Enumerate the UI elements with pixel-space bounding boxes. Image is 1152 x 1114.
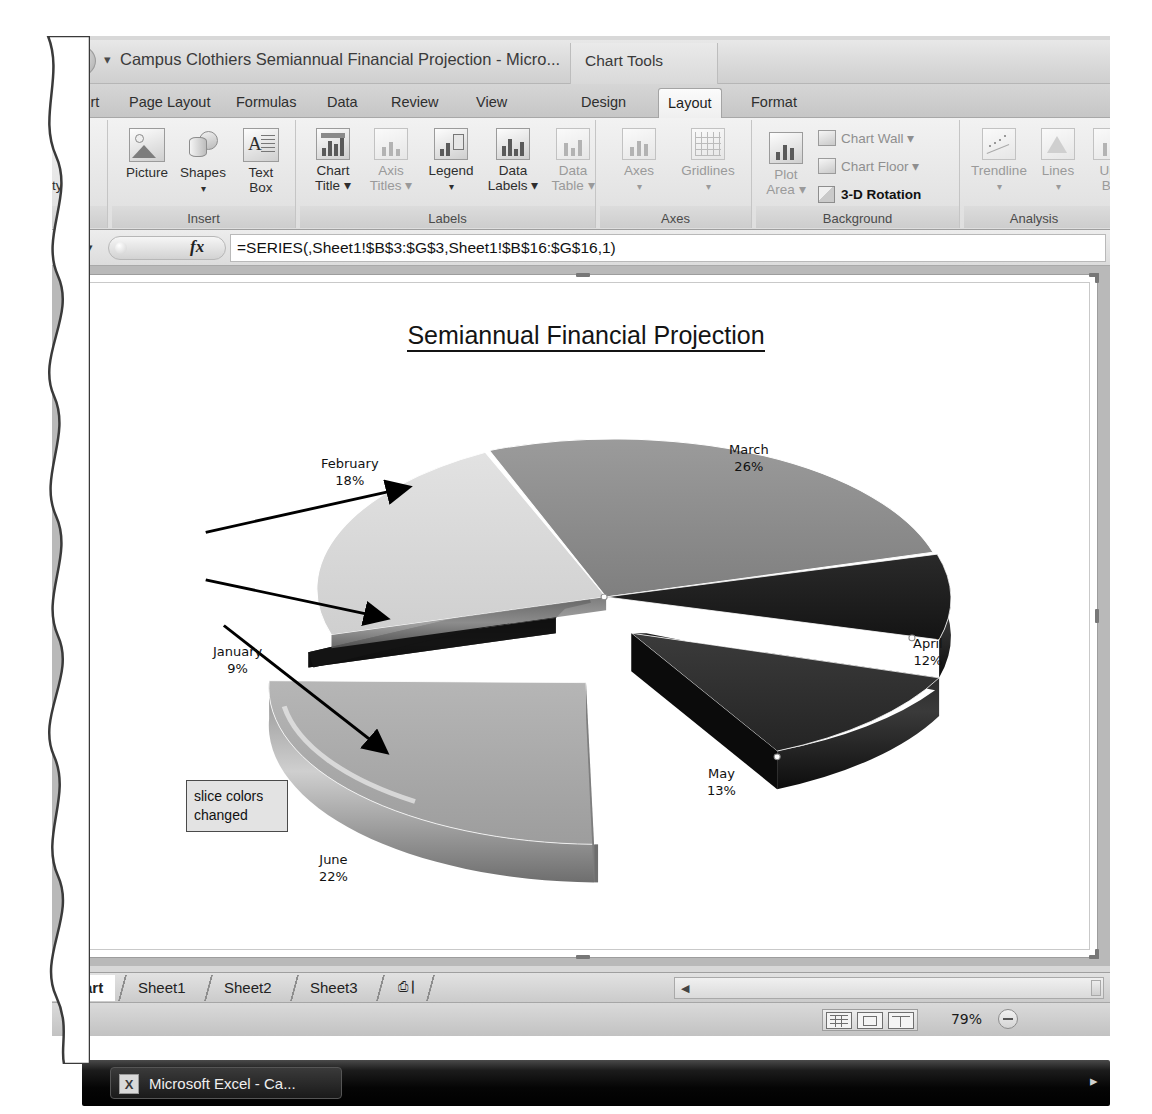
tab-design[interactable]: Design xyxy=(572,88,635,118)
axes-caret-icon[interactable]: ▾ xyxy=(637,181,642,192)
page-layout-view-icon[interactable] xyxy=(857,1012,883,1029)
data-label-june[interactable]: June22% xyxy=(319,851,348,885)
name-box-caret-icon[interactable]: ▾ xyxy=(86,240,93,255)
data-label-march[interactable]: March26% xyxy=(729,441,769,475)
formula-input[interactable]: =SERIES(,Sheet1!$B$3:$G$3,Sheet1!$B$16:$… xyxy=(230,234,1106,262)
zoom-level[interactable]: 79% xyxy=(951,1011,982,1027)
insert-function-icon[interactable]: fx xyxy=(190,237,204,257)
sheet-tab-sheet2[interactable]: Sheet2 xyxy=(212,975,284,1001)
data-label-may[interactable]: May13% xyxy=(707,765,736,799)
clipped-style-label: tyle xyxy=(52,178,73,193)
tab-insert[interactable]: Insert xyxy=(54,88,108,118)
page-break-preview-icon[interactable] xyxy=(888,1012,914,1029)
annotation-line-2: changed xyxy=(194,806,287,825)
selection-handle-left[interactable] xyxy=(73,609,77,623)
scroll-left-icon[interactable]: ◀ xyxy=(677,980,693,996)
tab-format[interactable]: Format xyxy=(742,88,806,118)
zoom-out-icon[interactable] xyxy=(998,1009,1018,1029)
tab-formulas[interactable]: Formulas xyxy=(227,88,305,118)
axis-titles-label-2: Titles ▾ xyxy=(370,178,413,193)
normal-view-icon[interactable] xyxy=(826,1012,852,1029)
chart-title-icon xyxy=(316,128,350,160)
taskbar-item-label: Microsoft Excel - Ca... xyxy=(149,1075,296,1092)
tab-view[interactable]: View xyxy=(467,88,516,118)
data-labels-icon xyxy=(496,128,530,160)
plot-area[interactable]: Semiannual Financial Projection xyxy=(82,282,1090,950)
gridlines-button[interactable]: Gridlines ▾ xyxy=(672,128,744,194)
data-labels-label-2: Labels ▾ xyxy=(488,178,539,193)
legend-caret-icon[interactable]: ▾ xyxy=(449,181,454,192)
axis-titles-label-1: Axis xyxy=(378,163,404,178)
tab-data[interactable]: Data xyxy=(318,88,367,118)
legend-button[interactable]: Legend ▾ xyxy=(420,128,482,194)
data-label-february[interactable]: February18% xyxy=(321,455,379,489)
plot-area-button[interactable]: Plot Area ▾ xyxy=(760,132,812,197)
pie-slice-may xyxy=(631,633,939,789)
picture-button[interactable]: Picture xyxy=(118,128,176,180)
axis-titles-button[interactable]: Axis Titles ▾ xyxy=(362,128,420,193)
sheet-tab-sep-5 xyxy=(424,975,437,1001)
taskbar-overflow-arrow-icon[interactable]: ▸ xyxy=(1090,1072,1098,1090)
picture-label: Picture xyxy=(126,165,168,180)
chart-title-button[interactable]: Chart Title ▾ xyxy=(304,128,362,193)
text-box-button[interactable]: A Text Box xyxy=(232,128,290,195)
trendline-icon xyxy=(982,128,1016,160)
lines-caret-icon[interactable]: ▾ xyxy=(1056,181,1061,192)
sheet-tab-bar: Chart Sheet1 Sheet2 Sheet3 ⎙⎮ ◀ xyxy=(52,972,1110,1002)
ribbon-group-labels: Chart Title ▾ Axis Titles ▾ Legend xyxy=(300,120,596,228)
data-labels-button[interactable]: Data Labels ▾ xyxy=(482,128,544,193)
pie-chart[interactable] xyxy=(83,283,1089,949)
chart-tools-context-tab: Chart Tools xyxy=(570,43,718,84)
axes-button[interactable]: Axes ▾ xyxy=(608,128,670,194)
selection-handle-top[interactable] xyxy=(576,273,590,277)
chart-wall-icon xyxy=(818,130,836,146)
view-buttons-group xyxy=(822,1009,918,1031)
sheet-tab-sheet1[interactable]: Sheet1 xyxy=(126,975,198,1001)
up-down-bars-icon xyxy=(1093,128,1110,160)
tab-layout[interactable]: Layout xyxy=(658,88,722,118)
selection-handle-br2[interactable] xyxy=(1095,949,1099,959)
up-down-bars-label-2: Ba xyxy=(1102,178,1110,193)
data-table-label-2: Table ▾ xyxy=(551,178,594,193)
chart-sheet-area: Semiannual Financial Projection xyxy=(52,266,1110,966)
data-label-january[interactable]: January9% xyxy=(213,643,262,677)
lines-button[interactable]: Lines ▾ xyxy=(1032,128,1084,194)
horizontal-scrollbar[interactable]: ◀ xyxy=(674,977,1104,999)
trendline-button[interactable]: Trendline ▾ xyxy=(966,128,1032,194)
office-button-icon[interactable] xyxy=(56,44,96,78)
split-handle[interactable] xyxy=(1091,980,1101,996)
axes-icon xyxy=(622,128,656,160)
chart-wall-button[interactable]: Chart Wall ▾ xyxy=(818,130,914,146)
windows-taskbar: X Microsoft Excel - Ca... ▸ xyxy=(82,1060,1110,1106)
data-table-button[interactable]: Data Table ▾ xyxy=(544,128,602,193)
tab-review[interactable]: Review xyxy=(382,88,448,118)
formula-bar-buttons[interactable] xyxy=(108,236,226,260)
clipped-group-caret-icon[interactable]: ▾ xyxy=(82,130,89,146)
selection-handle-tr2[interactable] xyxy=(1095,273,1099,283)
selection-handle-tl2[interactable] xyxy=(73,273,83,277)
sheet-tab-chart[interactable]: Chart xyxy=(52,975,115,1001)
taskbar-item-excel[interactable]: X Microsoft Excel - Ca... xyxy=(110,1067,342,1099)
chart-area[interactable]: Semiannual Financial Projection xyxy=(74,274,1098,958)
plot-area-label-2: Area ▾ xyxy=(766,182,805,197)
tab-page-layout[interactable]: Page Layout xyxy=(120,88,219,118)
selection-handle-right[interactable] xyxy=(1095,609,1099,623)
selection-handle-bl2[interactable] xyxy=(73,955,83,959)
figure-page: ▾ Campus Clothiers Semiannual Financial … xyxy=(0,0,1152,1114)
quick-access-toolbar-caret-icon[interactable]: ▾ xyxy=(104,52,111,67)
data-label-april[interactable]: April12% xyxy=(913,635,943,669)
selection-handle-bottom[interactable] xyxy=(576,955,590,959)
chart-floor-button[interactable]: Chart Floor ▾ xyxy=(818,158,919,174)
formula-bar: ▾ fx =SERIES(,Sheet1!$B$3:$G$3,Sheet1!$B… xyxy=(52,230,1110,266)
up-down-bars-button[interactable]: Up/ Ba xyxy=(1084,128,1110,193)
3d-rotation-button[interactable]: 3-D Rotation xyxy=(818,186,921,203)
sheet-tab-sheet3[interactable]: Sheet3 xyxy=(298,975,370,1001)
annotation-line-1: slice colors xyxy=(194,787,287,806)
ribbon-group-axes: Axes ▾ Gridlines ▾ Axes xyxy=(600,120,752,228)
trendline-caret-icon[interactable]: ▾ xyxy=(997,181,1002,192)
lines-label: Lines xyxy=(1042,163,1074,178)
shapes-caret-icon[interactable]: ▾ xyxy=(201,183,206,194)
shapes-button[interactable]: Shapes ▾ xyxy=(174,128,232,196)
data-point-handle-may xyxy=(774,754,780,760)
gridlines-caret-icon[interactable]: ▾ xyxy=(706,181,711,192)
